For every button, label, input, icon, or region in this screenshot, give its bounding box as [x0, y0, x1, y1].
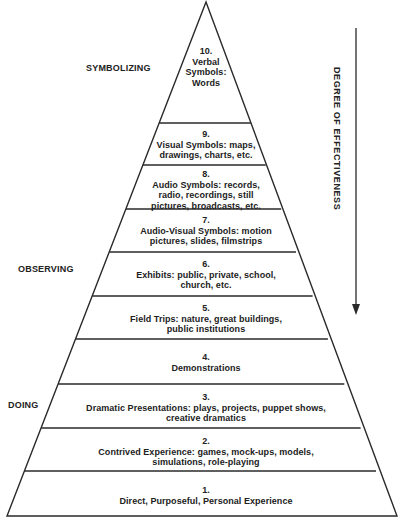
- stage-label-symbolizing: SYMBOLIZING: [86, 63, 151, 73]
- stage-label-observing: OBSERVING: [18, 264, 74, 274]
- effectiveness-arrow: [352, 28, 360, 315]
- band-9: 9. Visual Symbols: maps, drawings, chart…: [126, 129, 286, 161]
- band-5: 5. Field Trips: nature, great buildings,…: [86, 303, 326, 335]
- band-8: 8. Audio Symbols: records, radio, record…: [116, 169, 296, 211]
- band-10: 10. Verbal Symbols: Words: [166, 46, 246, 88]
- band-4: 4. Demonstrations: [86, 352, 326, 373]
- band-6: 6. Exhibits: public, private, school, ch…: [96, 259, 316, 291]
- band-7: 7. Audio-Visual Symbols: motion pictures…: [96, 215, 316, 247]
- stage-label-doing: DOING: [8, 400, 39, 410]
- band-2: 2. Contrived Experience: games, mock-ups…: [46, 436, 366, 468]
- degree-of-effectiveness-label: DEGREE OF EFFECTIVENESS: [332, 67, 342, 210]
- band-3: 3. Dramatic Presentations: plays, projec…: [46, 392, 366, 424]
- band-1: 1. Direct, Purposeful, Personal Experien…: [46, 485, 366, 506]
